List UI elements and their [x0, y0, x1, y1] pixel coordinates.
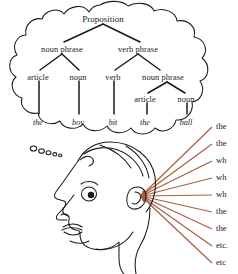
input-ray-label-3: wh: [216, 172, 227, 182]
tree-leaf-the-0: the: [33, 118, 43, 127]
input-ray-label-0: the: [216, 121, 227, 131]
tree-node-noun-phrase-l2-0: noun phrase: [41, 45, 83, 54]
edge-np2-noun: [167, 82, 185, 93]
input-ray-label-2: wh: [216, 155, 227, 165]
edge-root-np: [64, 24, 103, 42]
tree-leaf-the-3: the: [140, 118, 150, 127]
tree-node-proposition: Proposition: [82, 14, 124, 24]
edge-np2-article: [148, 82, 167, 93]
tree-node-article-l3-0: article: [27, 73, 49, 82]
edge-np-noun: [62, 54, 79, 70]
input-ray-label-1: the: [216, 138, 227, 148]
tree-node-noun-l3-1: noun: [69, 73, 86, 82]
tree-node-noun-l4-1: noun: [177, 95, 194, 104]
tree-node-noun-phrase-l3-3: noun phrase: [142, 73, 184, 82]
parse-tree-edges: [0, 0, 238, 274]
input-ray-label-8: etc: [216, 257, 226, 267]
tree-node-article-l4-0: article: [134, 95, 156, 104]
edge-vp-verb: [115, 54, 138, 70]
tree-leaf-boy-1: boy: [72, 118, 84, 127]
edge-vp-np2: [138, 54, 160, 70]
tree-leaf-ball-4: ball: [180, 118, 193, 127]
tree-node-verb-l3-2: verb: [105, 73, 120, 82]
input-ray-label-4: wh: [216, 189, 227, 199]
input-ray-label-6: the: [216, 223, 227, 233]
figure-canvas: Propositionnoun phraseverb phrasearticle…: [0, 0, 238, 274]
tree-node-verb-phrase-l2-1: verb phrase: [118, 45, 158, 54]
tree-leaf-hit-2: hit: [109, 118, 118, 127]
edge-root-vp: [103, 24, 140, 42]
input-ray-label-5: the: [216, 206, 227, 216]
edge-np-article: [40, 54, 62, 70]
input-ray-label-7: etc.: [216, 240, 228, 250]
